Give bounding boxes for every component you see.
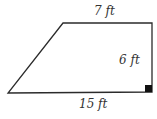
height-label: 6 ft <box>119 53 140 67</box>
bottom-side-label: 15 ft <box>79 97 108 111</box>
top-side-label: 7 ft <box>94 4 115 18</box>
right-angle-marker <box>145 85 152 92</box>
trapezoid-diagram: 7 ft 6 ft 15 ft <box>0 0 157 119</box>
